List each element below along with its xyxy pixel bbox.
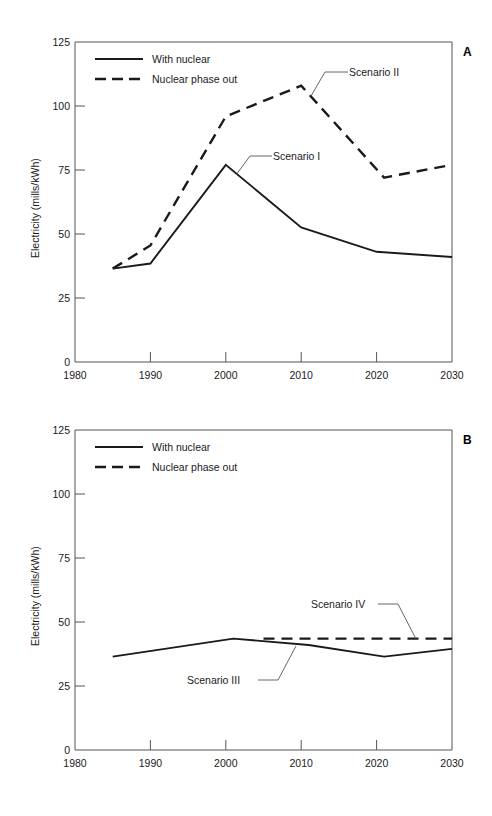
leader-scenario-2 (311, 72, 348, 96)
panel-b-axes (75, 430, 452, 750)
panel-b-xtick-2000: 2000 (203, 758, 249, 769)
panel-b: 125 100 75 50 25 0 1980 1990 2000 2010 2… (0, 408, 492, 816)
panel-a-legend-label-nuclear-phase-out: Nuclear phase out (152, 74, 237, 85)
panel-b-letter: B (463, 434, 472, 446)
leader-scenario-4 (378, 604, 416, 639)
leader-scenario-3 (258, 646, 296, 680)
panel-a-xtick-2010: 2010 (278, 370, 324, 381)
panel-a-legend-label-with-nuclear: With nuclear (152, 54, 210, 65)
panel-a: 125 100 75 50 25 0 1980 1990 2000 2010 2… (0, 0, 492, 408)
leader-scenario-1 (236, 156, 272, 175)
panel-b-ytick-0: 0 (44, 745, 70, 756)
panel-a-xtick-1990: 1990 (127, 370, 173, 381)
panel-b-annotation-scenario-3: Scenario III (187, 675, 240, 686)
panel-b-xtick-1980: 1980 (52, 758, 98, 769)
panel-b-annotation-scenario-4: Scenario IV (311, 599, 365, 610)
panel-a-ytick-125: 125 (44, 37, 70, 48)
figure-two-panel-line-charts: 125 100 75 50 25 0 1980 1990 2000 2010 2… (0, 0, 492, 816)
panel-a-ytick-25: 25 (44, 293, 70, 304)
panel-a-ytick-75: 75 (44, 165, 70, 176)
panel-a-axes (75, 42, 452, 362)
panel-a-y-axis-title: Electricity (mills/kWh) (30, 158, 41, 258)
panel-a-xtick-2030: 2030 (429, 370, 475, 381)
panel-a-xtick-1980: 1980 (52, 370, 98, 381)
panel-a-plot (0, 0, 492, 408)
series-nuclear-phase-out-a (113, 86, 452, 269)
panel-a-ytick-100: 100 (44, 101, 70, 112)
panel-a-annotation-scenario-2: Scenario II (349, 67, 399, 78)
panel-b-ytick-25: 25 (44, 681, 70, 692)
panel-a-legend-keys (95, 59, 143, 79)
panel-b-legend-label-with-nuclear: With nuclear (152, 442, 210, 453)
panel-a-xtick-2020: 2020 (354, 370, 400, 381)
panel-b-xtick-2030: 2030 (429, 758, 475, 769)
panel-b-ytick-100: 100 (44, 489, 70, 500)
panel-b-plot (0, 408, 492, 816)
panel-b-legend-label-nuclear-phase-out: Nuclear phase out (152, 462, 237, 473)
panel-a-ytick-50: 50 (44, 229, 70, 240)
panel-b-ytick-125: 125 (44, 425, 70, 436)
panel-b-legend-keys (95, 447, 143, 467)
panel-b-xtick-2020: 2020 (354, 758, 400, 769)
series-with-nuclear-a (113, 165, 452, 269)
panel-b-ytick-50: 50 (44, 617, 70, 628)
panel-b-xtick-1990: 1990 (127, 758, 173, 769)
series-with-nuclear-b (113, 639, 452, 657)
panel-a-annotation-scenario-1: Scenario I (273, 151, 320, 162)
panel-a-xtick-2000: 2000 (203, 370, 249, 381)
panel-a-ytick-0: 0 (44, 357, 70, 368)
panel-b-ytick-75: 75 (44, 553, 70, 564)
panel-a-letter: A (463, 46, 472, 58)
panel-b-y-axis-title: Electricity (mills/kWh) (30, 546, 41, 646)
panel-b-xtick-2010: 2010 (278, 758, 324, 769)
